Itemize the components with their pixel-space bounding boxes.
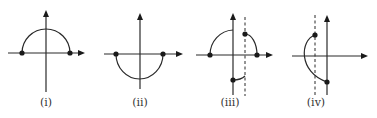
x-axis-arrow-icon — [361, 53, 368, 59]
figure-canvas: (i) (ii) (iii) (iv) — [0, 0, 377, 118]
panel-iii: (iii) — [196, 13, 273, 109]
point-dot — [242, 31, 247, 36]
x-axis-arrow-icon — [176, 51, 183, 57]
panel-iv: (iv) — [292, 15, 368, 109]
y-axis-arrow-icon — [230, 13, 236, 20]
point-dot — [160, 51, 165, 56]
curve-arc — [210, 30, 233, 55]
y-axis-arrow-icon — [43, 10, 49, 17]
panel-label: (i) — [40, 96, 52, 109]
y-axis-arrow-icon — [137, 13, 143, 20]
y-axis-arrow-icon — [324, 15, 330, 22]
point-dot — [230, 77, 235, 82]
panel-i: (i) — [8, 10, 85, 109]
point-dot — [312, 32, 317, 37]
point-dot — [19, 50, 24, 55]
x-axis-arrow-icon — [78, 50, 85, 56]
x-axis-arrow-icon — [266, 52, 273, 58]
panel-label: (iii) — [220, 96, 239, 109]
curve-arc — [304, 35, 327, 82]
point-dot — [67, 50, 72, 55]
panel-ii: (ii) — [104, 13, 183, 109]
panel-label: (ii) — [132, 96, 148, 109]
point-dot — [254, 52, 259, 57]
point-dot — [207, 52, 212, 57]
panel-label: (iv) — [307, 96, 325, 109]
point-dot — [113, 51, 118, 56]
curve-arc — [245, 34, 257, 55]
point-dot — [324, 79, 329, 84]
